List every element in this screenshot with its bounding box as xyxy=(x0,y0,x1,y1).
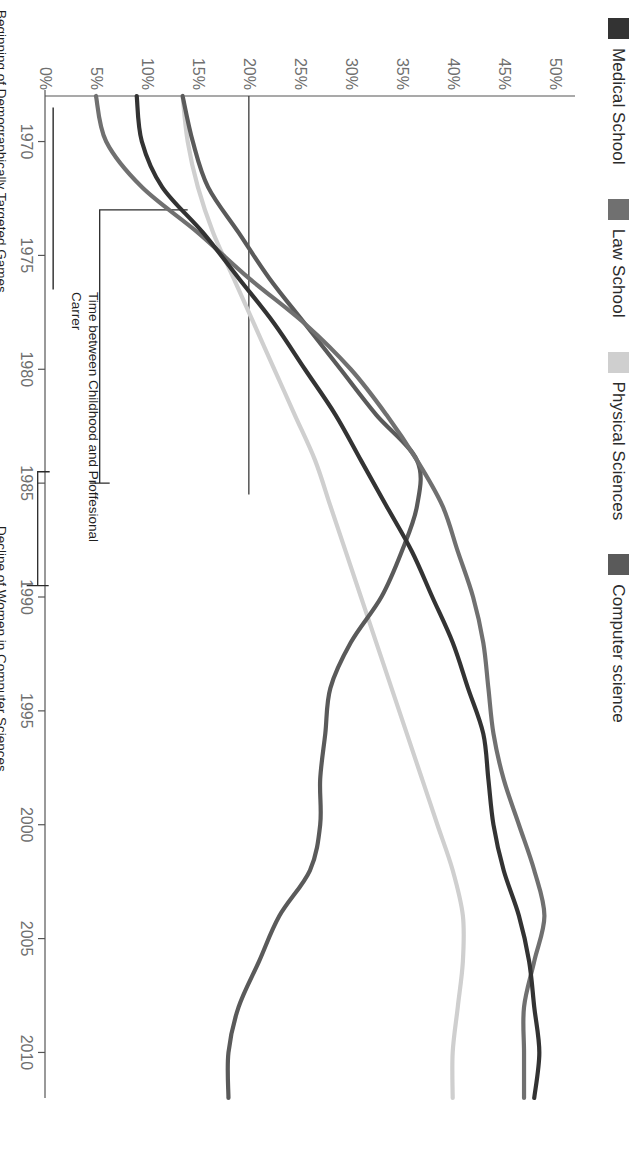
marker-bracket-childhood xyxy=(90,210,188,483)
plot-area: 0%5%10%15%20%25%30%35%40%45%50% 19701975… xyxy=(45,96,575,1098)
chart-canvas: Medical School Law School Physical Scien… xyxy=(0,0,637,1150)
x-axis-tick-label: 1990 xyxy=(17,579,35,615)
legend-label-computer-science: Computer science xyxy=(609,584,629,723)
x-axis-tick-label: 1975 xyxy=(17,238,35,274)
series-line-law-school xyxy=(96,96,544,1098)
annotation-decline-women-cs: Decline of Women in Computer Sciences xyxy=(0,526,9,856)
x-axis-tick-label: 1995 xyxy=(17,693,35,729)
x-axis-tick-label: 1985 xyxy=(17,465,35,501)
x-axis-tick-label: 1980 xyxy=(17,351,35,387)
y-axis-tick-label: 35% xyxy=(393,30,411,90)
legend-label-law-school: Law School xyxy=(609,229,629,318)
y-axis-tick-label: 25% xyxy=(291,30,309,90)
y-axis-tick-label: 5% xyxy=(87,30,105,90)
y-axis-tick-label: 30% xyxy=(342,30,360,90)
x-axis-tick-label: 2005 xyxy=(17,921,35,957)
series-line-medical-school xyxy=(137,96,540,1098)
legend-swatch-law-school xyxy=(608,199,629,220)
y-axis-tick-label: 40% xyxy=(444,30,462,90)
plot-svg xyxy=(45,96,575,1098)
legend-swatch-physical-sciences xyxy=(608,352,629,373)
chart-legend: Medical School Law School Physical Scien… xyxy=(608,18,629,757)
y-axis-tick-label: 0% xyxy=(36,30,54,90)
series-line-physical-sciences xyxy=(183,96,464,1098)
legend-item-medical-school: Medical School xyxy=(608,18,629,165)
annotation-childhood-career: Time between Childhood and Proffesional … xyxy=(67,292,101,542)
y-axis-tick-label: 10% xyxy=(138,30,156,90)
x-axis-tick-label: 2010 xyxy=(17,1035,35,1071)
legend-item-computer-science: Computer science xyxy=(608,554,629,723)
x-axis-tick-label: 2000 xyxy=(17,807,35,843)
legend-item-physical-sciences: Physical Sciences xyxy=(608,352,629,521)
y-axis-tick-label: 50% xyxy=(546,30,564,90)
legend-item-law-school: Law School xyxy=(608,199,629,318)
annotation-targeted-games: Beginning of Demographically Targeted Ga… xyxy=(0,10,9,340)
legend-swatch-computer-science xyxy=(608,554,629,575)
y-axis-tick-label: 45% xyxy=(495,30,513,90)
rotated-chart-wrapper: Medical School Law School Physical Scien… xyxy=(0,0,637,1150)
legend-swatch-medical-school xyxy=(608,18,629,39)
legend-label-medical-school: Medical School xyxy=(609,48,629,165)
y-axis-tick-label: 15% xyxy=(189,30,207,90)
x-axis-tick-label: 1970 xyxy=(17,124,35,160)
y-axis-tick-label: 20% xyxy=(240,30,258,90)
legend-label-physical-sciences: Physical Sciences xyxy=(609,382,629,521)
